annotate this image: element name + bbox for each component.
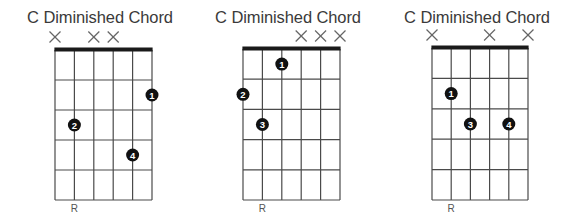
finger-dot: 2 — [68, 119, 81, 132]
fretboard-grid: 134 — [382, 0, 572, 219]
finger-dot: 1 — [146, 89, 159, 102]
finger-number: 3 — [468, 119, 473, 130]
finger-dot: 4 — [502, 118, 515, 131]
root-label: R — [448, 203, 455, 214]
nut-bar — [242, 47, 340, 51]
chord-diagram-3: C Diminished Chord 134R — [382, 0, 572, 219]
nut-bar — [431, 46, 528, 50]
finger-number: 2 — [240, 89, 245, 100]
fretboard-grid: 123 — [193, 0, 383, 219]
muted-string-x-icon — [88, 32, 99, 43]
muted-string-x-icon — [523, 30, 534, 41]
muted-string-x-icon — [108, 32, 119, 43]
finger-dot: 3 — [256, 118, 269, 131]
muted-string-x-icon — [427, 30, 438, 41]
finger-number: 1 — [449, 88, 455, 99]
muted-string-x-icon — [484, 30, 495, 41]
muted-string-x-icon — [335, 31, 346, 42]
nut-bar — [54, 48, 152, 52]
finger-dot: 1 — [445, 87, 458, 100]
finger-dot: 3 — [464, 118, 477, 131]
finger-number: 1 — [149, 90, 155, 101]
finger-number: 4 — [130, 150, 136, 161]
muted-string-x-icon — [50, 32, 61, 43]
finger-number: 1 — [279, 59, 285, 70]
root-label: R — [259, 203, 266, 214]
finger-dot: 4 — [126, 149, 139, 162]
finger-dot: 1 — [275, 58, 288, 71]
chord-diagram-1: C Diminished Chord 124R — [5, 0, 195, 219]
fretboard-grid: 124 — [5, 0, 195, 219]
finger-number: 2 — [72, 120, 77, 131]
root-label: R — [71, 203, 78, 214]
finger-number: 3 — [260, 119, 265, 130]
chord-diagram-2: C Diminished Chord 123R — [193, 0, 383, 219]
muted-string-x-icon — [296, 31, 307, 42]
finger-dot: 2 — [237, 88, 250, 101]
muted-string-x-icon — [315, 31, 326, 42]
finger-number: 4 — [506, 119, 512, 130]
